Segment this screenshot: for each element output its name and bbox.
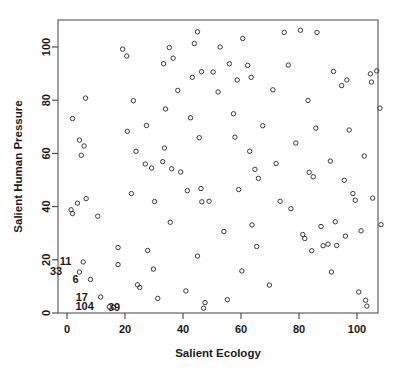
data-point bbox=[190, 75, 194, 79]
data-point bbox=[369, 80, 373, 84]
data-point bbox=[231, 112, 235, 116]
data-point bbox=[368, 72, 372, 76]
data-point bbox=[162, 146, 166, 150]
data-point bbox=[79, 153, 83, 157]
data-point bbox=[357, 290, 361, 294]
data-point bbox=[120, 47, 124, 51]
data-point bbox=[235, 78, 239, 82]
data-point bbox=[256, 176, 260, 180]
data-point bbox=[278, 199, 282, 203]
data-point bbox=[364, 298, 368, 302]
data-point bbox=[298, 28, 302, 32]
data-point bbox=[145, 248, 149, 252]
data-point bbox=[131, 99, 135, 103]
data-point bbox=[253, 167, 257, 171]
data-point bbox=[197, 136, 201, 140]
x-axis-title: Salient Ecology bbox=[175, 347, 261, 359]
data-point bbox=[328, 159, 332, 163]
x-axis-tick-label: 100 bbox=[348, 323, 366, 335]
data-point bbox=[245, 63, 249, 67]
data-point bbox=[343, 234, 347, 238]
data-point bbox=[151, 267, 155, 271]
data-point bbox=[149, 166, 153, 170]
data-point bbox=[248, 149, 252, 153]
data-point bbox=[362, 154, 366, 158]
data-point bbox=[282, 30, 286, 34]
data-point bbox=[250, 223, 254, 227]
data-point bbox=[163, 107, 167, 111]
data-point bbox=[192, 41, 196, 45]
chart-screenshot: 020406080100020406080100Salient EcologyS… bbox=[0, 0, 408, 380]
data-point bbox=[156, 296, 160, 300]
data-point bbox=[134, 149, 138, 153]
data-point bbox=[200, 200, 204, 204]
data-point bbox=[335, 243, 339, 247]
data-point bbox=[333, 220, 337, 224]
data-point bbox=[161, 62, 165, 66]
data-point bbox=[310, 249, 314, 253]
y-axis-tick-label: 0 bbox=[40, 310, 52, 316]
plot-frame bbox=[58, 20, 378, 313]
data-point bbox=[144, 123, 148, 127]
x-axis-tick-label: 80 bbox=[293, 323, 305, 335]
data-point bbox=[116, 245, 120, 249]
data-point bbox=[339, 83, 343, 87]
chart-canvas: 020406080100020406080100Salient EcologyS… bbox=[0, 0, 408, 380]
data-point bbox=[359, 229, 363, 233]
data-point bbox=[81, 260, 85, 264]
data-point bbox=[171, 56, 175, 60]
data-point bbox=[116, 262, 120, 266]
data-point bbox=[88, 277, 92, 281]
y-axis-tick-label: 60 bbox=[40, 147, 52, 159]
data-point bbox=[77, 138, 81, 142]
data-point bbox=[240, 269, 244, 273]
data-points-group bbox=[69, 28, 383, 310]
data-point bbox=[307, 170, 311, 174]
data-point bbox=[167, 45, 171, 49]
data-point bbox=[84, 196, 88, 200]
data-point bbox=[241, 36, 245, 40]
data-point bbox=[331, 69, 335, 73]
data-point bbox=[75, 201, 79, 205]
y-axis-title: Salient Human Pressure bbox=[12, 100, 24, 232]
data-point bbox=[365, 304, 369, 308]
data-point bbox=[83, 96, 87, 100]
data-point bbox=[326, 242, 330, 246]
data-point bbox=[168, 220, 172, 224]
data-point bbox=[203, 300, 207, 304]
y-axis-tick-label: 20 bbox=[40, 254, 52, 266]
data-point bbox=[125, 54, 129, 58]
data-point bbox=[347, 128, 351, 132]
data-point-label: 33 bbox=[50, 265, 62, 277]
data-point bbox=[274, 161, 278, 165]
data-point bbox=[353, 198, 357, 202]
data-point bbox=[315, 30, 319, 34]
data-point bbox=[345, 78, 349, 82]
data-point bbox=[178, 170, 182, 174]
data-point bbox=[249, 75, 253, 79]
data-point bbox=[314, 126, 318, 130]
x-axis-tick-label: 0 bbox=[64, 323, 70, 335]
data-point bbox=[216, 90, 220, 94]
data-point bbox=[271, 88, 275, 92]
data-point-label: 104 bbox=[75, 300, 94, 312]
data-point bbox=[254, 244, 258, 248]
data-point bbox=[195, 30, 199, 34]
data-point bbox=[152, 199, 156, 203]
data-point bbox=[188, 116, 192, 120]
data-point bbox=[311, 175, 315, 179]
data-point bbox=[267, 283, 271, 287]
data-point bbox=[176, 88, 180, 92]
data-point bbox=[351, 191, 355, 195]
data-point bbox=[329, 270, 333, 274]
x-axis-tick-label: 60 bbox=[235, 323, 247, 335]
data-point bbox=[319, 224, 323, 228]
y-axis-tick-label: 40 bbox=[40, 200, 52, 212]
data-point bbox=[370, 196, 374, 200]
x-axis-tick-label: 40 bbox=[177, 323, 189, 335]
data-point bbox=[261, 124, 265, 128]
data-point bbox=[161, 159, 165, 163]
data-point bbox=[96, 214, 100, 218]
x-axis-tick-label: 20 bbox=[119, 323, 131, 335]
y-axis-tick-label: 100 bbox=[40, 38, 52, 56]
